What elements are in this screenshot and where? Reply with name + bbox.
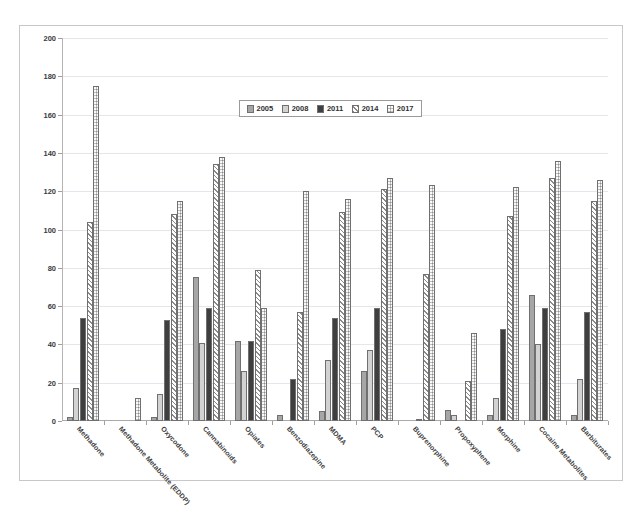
bar [584,312,590,421]
y-tick-label: 60 [48,302,56,311]
plot-area: 020406080100120140160180200 MethadoneMet… [62,38,608,421]
bar [219,157,225,421]
bar [387,178,393,421]
bar [235,341,241,421]
bar-group [482,38,524,421]
bar [451,415,457,421]
bar [471,333,477,421]
legend-swatch-icon [352,105,359,113]
bar [577,379,583,421]
bar [416,419,422,421]
bar-group [146,38,188,421]
x-axis-label: Cocaine Metabolites [538,425,590,481]
legend-label: 2008 [292,104,309,113]
x-axis-label: Oxycodone [160,425,191,459]
bar-group [230,38,272,421]
legend-item: 2017 [387,104,413,113]
bar [487,415,493,421]
bar [213,164,219,421]
x-axis-label: Propoxyphene [454,425,493,467]
bar [297,312,303,421]
bar-group [272,38,314,421]
bar [319,411,325,421]
bar [157,394,163,421]
legend-label: 2017 [397,104,414,113]
x-axis-label: Methadone [76,425,107,458]
bar [290,379,296,421]
legend-item: 2005 [247,104,273,113]
bar [151,417,157,421]
bar [542,308,548,421]
y-tick-label: 20 [48,378,56,387]
bar [241,371,247,421]
legend-item: 2014 [352,104,378,113]
bar [374,308,380,421]
x-tick-mark [482,421,483,425]
bar [591,201,597,421]
x-tick-mark [398,421,399,425]
legend-item: 2011 [317,104,343,113]
y-tick-label: 160 [43,110,56,119]
bar-group [188,38,230,421]
bar [67,417,73,421]
x-axis-label: Buprenorphine [412,425,452,468]
x-axis-label: Cannabinoids [202,425,239,465]
x-tick-mark [188,421,189,425]
bar [93,86,99,421]
x-tick-mark [104,421,105,425]
legend-swatch-icon [387,105,394,113]
bar [571,415,577,421]
bar-group [314,38,356,421]
x-axis-label: Methadone Metabolite (EDDP) [118,425,192,506]
bar-group [398,38,440,421]
x-tick-mark [146,421,147,425]
bar [255,270,261,421]
y-tick-label: 200 [43,34,56,43]
bar [345,199,351,421]
legend-swatch-icon [317,105,324,113]
bar [193,277,199,421]
bar [555,161,561,421]
y-tick-label: 80 [48,263,56,272]
legend-label: 2014 [362,104,379,113]
bar [507,216,513,421]
bar [303,191,309,421]
x-axis-label: Opiates [244,425,267,449]
chart-legend: 20052008201120142017 [239,100,422,117]
x-tick-mark [272,421,273,425]
x-tick-mark [440,421,441,425]
bar [381,189,387,421]
bar [332,318,338,421]
x-tick-mark [608,421,609,425]
x-axis-label: Benzodiazepine [286,425,328,470]
bar [277,415,283,421]
bar-group [524,38,566,421]
bar [206,308,212,421]
y-tick-label: 140 [43,148,56,157]
bar [423,274,429,421]
y-tick-mark [58,421,62,422]
legend-label: 2011 [327,104,343,113]
bar [493,398,499,421]
x-axis-label: MDMA [328,425,348,446]
x-tick-mark [524,421,525,425]
bar [325,360,331,421]
bar [87,222,93,421]
bar [73,388,79,421]
x-tick-mark [566,421,567,425]
bar [429,185,435,421]
bar [597,180,603,421]
x-tick-mark [356,421,357,425]
bar [465,381,471,421]
x-tick-mark [230,421,231,425]
legend-swatch-icon [247,105,254,113]
bar [135,398,141,421]
bar [199,343,205,422]
y-tick-label: 120 [43,187,56,196]
bar-group [356,38,398,421]
x-axis-label: Barbiturates [580,425,614,461]
y-tick-label: 180 [43,72,56,81]
bar [513,187,519,421]
bar [171,214,177,421]
x-axis-label: Morphine [496,425,523,454]
